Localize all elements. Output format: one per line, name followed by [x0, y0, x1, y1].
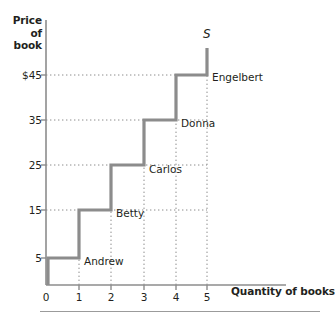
- x-tick-label-2: 2: [101, 291, 121, 303]
- supply-curve: [48, 48, 207, 285]
- seller-label-donna: Donna: [181, 117, 215, 129]
- x-axis-title: Quantity of books: [231, 285, 335, 298]
- y-tick-label-35: 35: [8, 114, 42, 126]
- y-tick-label-15: 15: [8, 204, 42, 216]
- bottom-divider: [40, 311, 320, 312]
- seller-label-carlos: Carlos: [149, 163, 182, 175]
- x-tick-label-5: 5: [197, 291, 217, 303]
- x-tick-label-4: 4: [166, 291, 186, 303]
- y-tick-label-45: $45: [8, 69, 42, 81]
- x-tick-label-1: 1: [69, 291, 89, 303]
- y-tick-label-25: 25: [8, 159, 42, 171]
- seller-label-engelbert: Engelbert: [212, 71, 263, 83]
- x-tick-label-3: 3: [134, 291, 154, 303]
- horizontal-gridlines: [46, 75, 207, 210]
- x-tick-label-0: 0: [36, 291, 56, 303]
- supply-curve-label: S: [203, 27, 211, 41]
- seller-label-betty: Betty: [116, 207, 144, 219]
- seller-label-andrew: Andrew: [84, 255, 124, 267]
- y-tick-label-5: 5: [8, 252, 42, 264]
